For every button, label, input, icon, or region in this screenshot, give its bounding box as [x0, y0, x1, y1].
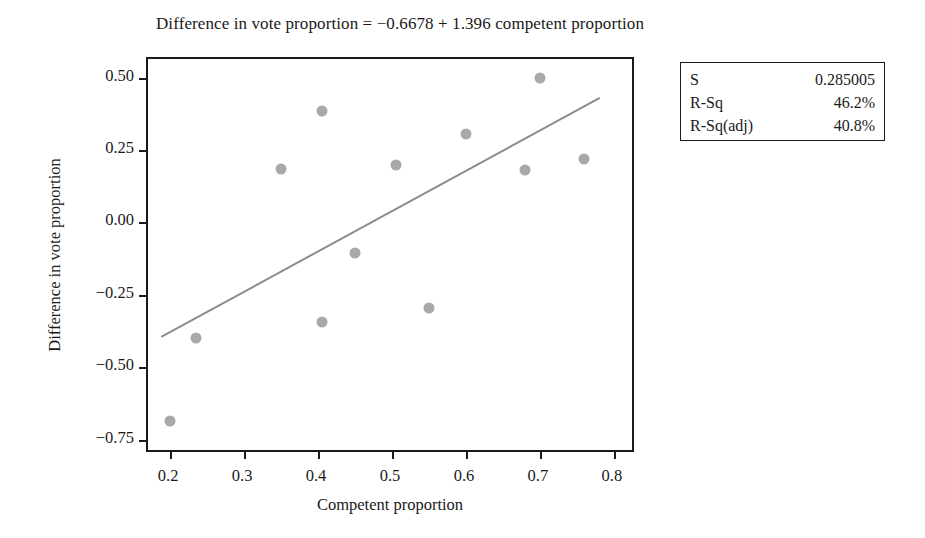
- x-tick: [392, 450, 394, 459]
- stat-row-rsq-adj: R-Sq(adj) 40.8%: [690, 114, 875, 137]
- x-tick-label: 0.6: [434, 466, 494, 486]
- data-point: [316, 317, 327, 328]
- x-tick-label: 0.8: [582, 466, 642, 486]
- x-tick: [466, 450, 468, 459]
- statistics-box: S 0.285005 R-Sq 46.2% R-Sq(adj) 40.8%: [680, 62, 885, 141]
- stat-row-s: S 0.285005: [690, 68, 875, 91]
- chart-title: Difference in vote proportion = −0.6678 …: [0, 14, 800, 34]
- stat-label-rsq-adj: R-Sq(adj): [690, 114, 753, 137]
- y-axis-title: Difference in vote proportion: [45, 95, 65, 415]
- x-tick: [170, 450, 172, 459]
- data-point: [520, 165, 531, 176]
- y-tick: [139, 367, 148, 369]
- x-tick: [318, 450, 320, 459]
- x-tick-label: 0.2: [138, 466, 198, 486]
- data-point: [423, 302, 434, 313]
- chart-canvas: Difference in vote proportion = −0.6678 …: [0, 0, 925, 538]
- data-point: [579, 153, 590, 164]
- y-tick: [139, 222, 148, 224]
- data-point: [276, 163, 287, 174]
- plot-inner: [148, 59, 632, 450]
- x-tick: [540, 450, 542, 459]
- stat-value-s: 0.285005: [815, 68, 875, 91]
- x-tick-label: 0.3: [212, 466, 272, 486]
- data-point: [390, 159, 401, 170]
- y-tick-label: 0.00: [72, 210, 134, 230]
- stat-label-s: S: [690, 68, 699, 91]
- y-tick-label: 0.25: [72, 138, 134, 158]
- y-tick: [139, 78, 148, 80]
- plot-area: [146, 57, 634, 452]
- data-point: [534, 72, 545, 83]
- stat-value-rsq-adj: 40.8%: [834, 114, 875, 137]
- y-tick: [139, 150, 148, 152]
- x-tick-label: 0.5: [360, 466, 420, 486]
- data-point: [316, 106, 327, 117]
- stat-row-rsq: R-Sq 46.2%: [690, 91, 875, 114]
- y-tick-label: 0.50: [72, 66, 134, 86]
- x-axis-title: Competent proportion: [146, 495, 634, 515]
- data-point: [350, 247, 361, 258]
- stat-value-rsq: 46.2%: [834, 91, 875, 114]
- x-tick: [614, 450, 616, 459]
- regression-line: [148, 59, 632, 450]
- stat-label-rsq: R-Sq: [690, 91, 723, 114]
- data-point: [165, 415, 176, 426]
- x-tick-label: 0.4: [286, 466, 346, 486]
- y-tick-label: −0.25: [72, 283, 134, 303]
- data-point: [191, 333, 202, 344]
- x-tick: [244, 450, 246, 459]
- data-point: [460, 129, 471, 140]
- y-tick-label: −0.75: [72, 428, 134, 448]
- y-tick: [139, 440, 148, 442]
- x-tick-label: 0.7: [508, 466, 568, 486]
- y-tick-label: −0.50: [72, 355, 134, 375]
- y-tick: [139, 295, 148, 297]
